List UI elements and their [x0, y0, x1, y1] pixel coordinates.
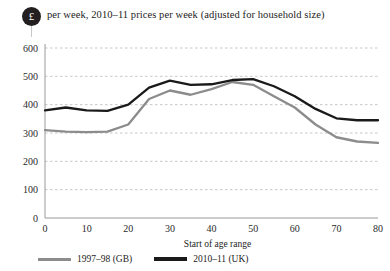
- legend-swatch-2010-11: [154, 257, 187, 261]
- chart-container: £ per week, 2010–11 prices per week (adj…: [0, 0, 390, 271]
- svg-text:40: 40: [207, 223, 217, 234]
- legend-swatch-1997-98: [38, 258, 71, 261]
- svg-text:400: 400: [23, 99, 38, 110]
- svg-text:600: 600: [23, 43, 38, 54]
- svg-text:60: 60: [290, 223, 300, 234]
- svg-text:20: 20: [123, 223, 133, 234]
- svg-text:70: 70: [331, 223, 341, 234]
- y-axis-ticks: 0100200300400500600: [23, 43, 38, 224]
- line-chart-svg: 0100200300400500600 01020304050607080 St…: [0, 0, 390, 271]
- legend-item-1: 2010–11 (UK): [154, 254, 248, 264]
- svg-text:80: 80: [373, 223, 383, 234]
- svg-text:0: 0: [43, 223, 48, 234]
- plot-area: 0100200300400500600 01020304050607080 St…: [0, 0, 390, 271]
- svg-text:200: 200: [23, 156, 38, 167]
- svg-text:100: 100: [23, 184, 38, 195]
- svg-text:10: 10: [82, 223, 92, 234]
- x-axis-ticks: 01020304050607080: [43, 223, 384, 234]
- series-line-1: [45, 79, 378, 120]
- svg-text:30: 30: [165, 223, 175, 234]
- gridlines: [45, 48, 378, 190]
- x-axis-label: Start of age range: [184, 239, 251, 249]
- svg-text:50: 50: [248, 223, 258, 234]
- svg-text:300: 300: [23, 128, 38, 139]
- legend-label-2010-11: 2010–11 (UK): [193, 254, 248, 264]
- legend-label-1997-98: 1997–98 (GB): [77, 254, 132, 264]
- series-line-0: [45, 82, 378, 143]
- chart-legend: 1997–98 (GB) 2010–11 (UK): [38, 251, 248, 267]
- svg-text:500: 500: [23, 71, 38, 82]
- svg-text:0: 0: [33, 213, 38, 224]
- legend-item-0: 1997–98 (GB): [38, 254, 132, 264]
